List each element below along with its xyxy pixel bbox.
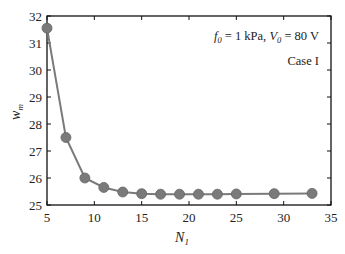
data-point-marker: [193, 189, 203, 199]
y-tick-label: 27: [29, 144, 43, 159]
x-tick-label: 30: [277, 210, 290, 225]
data-point-marker: [61, 133, 71, 143]
x-tick-label: 20: [183, 210, 196, 225]
data-point-marker: [307, 188, 317, 198]
data-series: [42, 23, 317, 199]
series-line: [47, 28, 312, 194]
y-tick-label: 26: [29, 171, 43, 186]
parameters-annotation: f0 = 1 kPa, V0 = 80 V: [214, 29, 319, 45]
y-axis-label: wm: [8, 104, 25, 120]
data-point-marker: [42, 23, 52, 33]
y-tick-label: 28: [29, 117, 42, 132]
y-tick-label: 25: [29, 198, 42, 213]
y-tick-label: 31: [29, 36, 42, 51]
data-point-marker: [175, 189, 185, 199]
data-point-marker: [99, 182, 109, 192]
line-chart: 51015202530352526272829303132 N1 wm f0 =…: [0, 0, 345, 254]
data-point-marker: [269, 189, 279, 199]
x-tick-label: 35: [325, 210, 338, 225]
x-tick-label: 25: [230, 210, 243, 225]
data-point-marker: [212, 189, 222, 199]
y-tick-label: 29: [29, 90, 42, 105]
y-tick-label: 30: [29, 63, 42, 78]
y-tick-label: 32: [29, 9, 42, 24]
x-tick-label: 5: [44, 210, 51, 225]
x-axis-label: N1: [174, 230, 189, 247]
data-point-marker: [118, 187, 128, 197]
data-point-marker: [80, 173, 90, 183]
data-point-marker: [137, 189, 147, 199]
x-tick-label: 10: [88, 210, 101, 225]
x-tick-label: 15: [135, 210, 148, 225]
data-point-marker: [231, 189, 241, 199]
data-point-marker: [156, 189, 166, 199]
case-annotation: Case I: [287, 54, 319, 68]
